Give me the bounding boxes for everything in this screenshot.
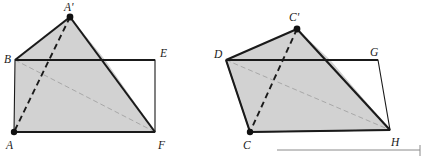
left-shaded-base — [14, 60, 155, 132]
left-label-A: A — [5, 139, 14, 151]
geometry-figure-svg: A B E F A' — [0, 0, 423, 162]
left-label-F: F — [157, 139, 166, 151]
right-vertex-dot-Cprime — [294, 26, 301, 33]
right-label-Cprime: C' — [289, 11, 300, 23]
right-label-D: D — [213, 48, 223, 60]
geometry-figure-stage: A B E F A' — [0, 0, 423, 162]
right-figure-group: C D G H C' — [213, 11, 420, 156]
right-label-H: H — [390, 136, 400, 148]
right-vertex-dot-C — [247, 129, 253, 135]
left-label-E: E — [159, 47, 167, 59]
right-shaded-flap — [226, 29, 330, 60]
right-label-G: G — [370, 46, 379, 58]
left-vertex-dot-A — [11, 129, 17, 135]
left-figure-group: A B E F A' — [4, 1, 167, 151]
right-label-C: C — [243, 139, 251, 151]
left-vertex-dot-Aprime — [67, 14, 74, 21]
left-label-B: B — [4, 53, 11, 65]
left-label-Aprime: A' — [63, 1, 74, 13]
